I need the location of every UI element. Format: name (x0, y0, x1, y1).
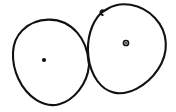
drawing-canvas[interactable]: Hand-drawn sketch of two overlapping clo… (0, 0, 176, 112)
right-center-dot-core (125, 42, 127, 44)
left-center-dot[interactable] (42, 58, 46, 62)
sketch-svg[interactable] (0, 0, 176, 112)
